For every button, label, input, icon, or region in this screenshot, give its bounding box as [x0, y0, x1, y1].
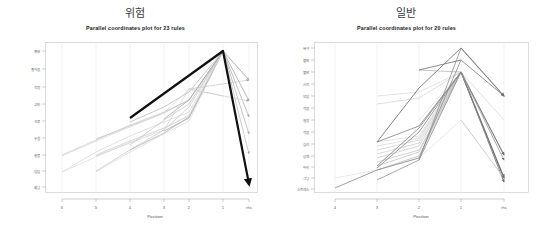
y-tick-label: 그냥	[303, 176, 310, 181]
y-tick-label: 시작	[303, 82, 310, 87]
x-tick-label: 5	[95, 205, 98, 210]
y-tick-label: 즐거움	[31, 67, 41, 72]
y-tick-label: 걱정	[303, 106, 309, 111]
y-tick-label: 우울	[34, 136, 41, 141]
x-tick-label: 1	[222, 205, 225, 210]
x-tick-label: 3	[163, 205, 166, 210]
y-tick-label: 걱정	[34, 85, 40, 90]
plot-svg-general: 욕구 불안 불안 시작 부담 걱정 실망 걱정 심리 상쾌 아쉬 그냥 스트레스	[271, 0, 542, 226]
x-tick-label: 4	[334, 205, 337, 210]
y-tick-label: 화남	[34, 185, 41, 190]
plot-area-risk: 흥분 즐거움 걱정 고민 괴로 우울 슬픔 답답 화남	[0, 0, 271, 226]
series-lines-dark	[335, 48, 461, 188]
panel-general: 일반 Parallel coordinates plot for 20 rule…	[271, 0, 542, 226]
y-tick-label: 실망	[303, 118, 310, 123]
y-tick-label: 스트레스	[297, 187, 310, 192]
panel-risk: 위험 Parallel coordinates plot for 23 rule…	[0, 0, 271, 226]
y-tick-label: 걱정	[303, 130, 309, 135]
plot-area-general: 욕구 불안 불안 시작 부담 걱정 실망 걱정 심리 상쾌 아쉬 그냥 스트레스	[271, 0, 542, 226]
parallel-coordinates-figure: 위험 Parallel coordinates plot for 23 rule…	[0, 0, 542, 226]
y-tick-label: 심리	[303, 142, 309, 147]
y-tick-label: 불안	[303, 70, 310, 75]
x-tick-label: 1	[460, 205, 463, 210]
y-tick-label: 답답	[34, 169, 41, 174]
x-tick-label: rhs	[501, 205, 507, 210]
x-tick-label: 3	[376, 205, 379, 210]
y-tick-label: 고민	[34, 102, 40, 107]
y-axis-ticks	[311, 48, 315, 189]
x-axis-title: Position	[147, 214, 163, 219]
x-tick-label: 2	[188, 205, 191, 210]
y-tick-label: 상쾌	[303, 154, 309, 159]
y-tick-label: 괴로	[34, 119, 41, 124]
series-arrows	[461, 48, 504, 182]
x-tick-label: rhs	[246, 205, 252, 210]
grid-vertical	[62, 43, 249, 193]
x-axis	[335, 199, 504, 202]
y-tick-label: 슬픔	[34, 153, 41, 158]
x-axis-title: Position	[413, 214, 429, 219]
series-lines-light	[335, 70, 504, 178]
x-tick-label: 2	[418, 205, 421, 210]
y-tick-label: 아쉬	[303, 165, 309, 170]
y-tick-label: 부담	[303, 94, 310, 99]
x-tick-label: 6	[61, 205, 64, 210]
y-tick-label: 불안	[303, 58, 310, 63]
y-tick-label: 흥분	[34, 49, 41, 54]
y-tick-label: 욕구	[303, 47, 310, 51]
y-axis-ticks	[42, 51, 46, 187]
x-tick-label: 4	[129, 205, 132, 210]
x-axis	[62, 199, 249, 202]
plot-svg-risk: 흥분 즐거움 걱정 고민 괴로 우울 슬픔 답답 화남	[0, 0, 271, 226]
